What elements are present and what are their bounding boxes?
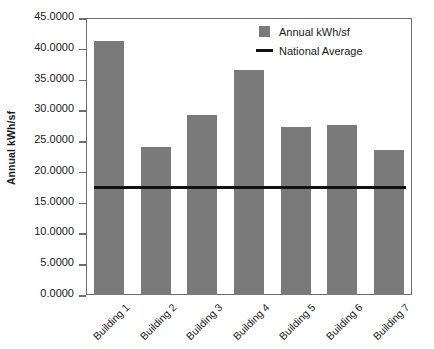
y-axis-tick-label: 15.0000 xyxy=(34,195,74,207)
x-axis-label-text: Building 2 xyxy=(137,301,178,342)
y-axis-tick-mark xyxy=(79,80,86,82)
y-axis-tick-label: 10.0000 xyxy=(34,225,74,237)
square-swatch-icon xyxy=(259,26,270,37)
bar xyxy=(234,70,264,295)
bar xyxy=(327,125,357,295)
y-axis-tick-label: 45.0000 xyxy=(34,10,74,22)
legend-item: National Average xyxy=(249,41,407,60)
bar xyxy=(187,115,217,295)
y-axis-tick-label: 25.0000 xyxy=(34,133,74,145)
x-axis-label-text: Building 6 xyxy=(324,301,365,342)
y-axis-tick-label: 0.0000 xyxy=(40,287,74,299)
x-axis-labels: Building 1Building 2Building 3Building 4… xyxy=(86,297,412,349)
bar xyxy=(141,147,171,295)
line-swatch-icon xyxy=(256,49,273,53)
legend-item: Annual kWh/sf xyxy=(249,22,407,41)
y-axis-tick-mark xyxy=(79,295,86,297)
legend-item-label: National Average xyxy=(279,45,363,57)
y-axis-tick-mark xyxy=(79,110,86,112)
y-axis-tick-label: 40.0000 xyxy=(34,41,74,53)
y-axis-tick-label: 35.0000 xyxy=(34,72,74,84)
y-axis-tick-mark xyxy=(79,172,86,174)
x-axis-label-text: Building 3 xyxy=(184,301,225,342)
y-axis-tick-mark xyxy=(79,264,86,266)
y-axis-tick-mark xyxy=(79,233,86,235)
bar xyxy=(281,127,311,295)
x-axis-label-text: Building 4 xyxy=(230,301,271,342)
x-axis-label-text: Building 7 xyxy=(370,301,411,342)
y-axis-tick-label: 5.0000 xyxy=(40,256,74,268)
bar xyxy=(374,150,404,295)
legend-swatch-wrap xyxy=(249,49,279,53)
legend-swatch-wrap xyxy=(249,26,279,37)
y-axis-tick-label: 30.0000 xyxy=(34,102,74,114)
x-axis-label-text: Building 5 xyxy=(277,301,318,342)
y-axis-tick-mark xyxy=(79,49,86,51)
national-average-line xyxy=(94,186,406,189)
legend-item-label: Annual kWh/sf xyxy=(279,26,350,38)
x-axis-label-text: Building 1 xyxy=(91,301,132,342)
y-axis-tick-mark xyxy=(79,141,86,143)
energy-use-bar-chart: Annual kWh/sf 0.00005.000010.000015.0000… xyxy=(0,0,434,349)
y-axis-tick-mark xyxy=(79,18,86,20)
y-axis-tick-mark xyxy=(79,203,86,205)
chart-legend: Annual kWh/sfNational Average xyxy=(249,22,407,60)
bar xyxy=(94,41,124,295)
y-axis-ticks: 0.00005.000010.000015.000020.000025.0000… xyxy=(0,0,86,313)
y-axis-tick-label: 20.0000 xyxy=(34,164,74,176)
